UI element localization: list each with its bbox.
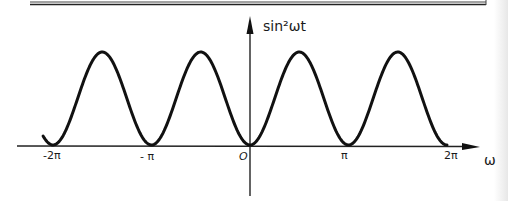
y-axis bbox=[247, 16, 254, 196]
tick-label-origin: O bbox=[239, 150, 248, 163]
tick-label-pi: π bbox=[341, 149, 348, 162]
tick-label-neg-two-pi: -2π bbox=[43, 149, 61, 162]
y-axis-arrow-icon bbox=[247, 16, 254, 34]
y-axis-label: sin²ωt bbox=[263, 18, 306, 34]
x-axis-label: ω bbox=[484, 152, 496, 168]
sin-squared-curve bbox=[43, 52, 447, 145]
tick-label-neg-pi: - π bbox=[140, 150, 154, 163]
tick-label-two-pi: 2π bbox=[444, 149, 458, 162]
top-frame-border bbox=[30, 0, 486, 5]
chart-canvas bbox=[0, 0, 508, 201]
scan-edge-shadow bbox=[494, 0, 508, 201]
x-axis-arrow-icon bbox=[462, 143, 480, 150]
